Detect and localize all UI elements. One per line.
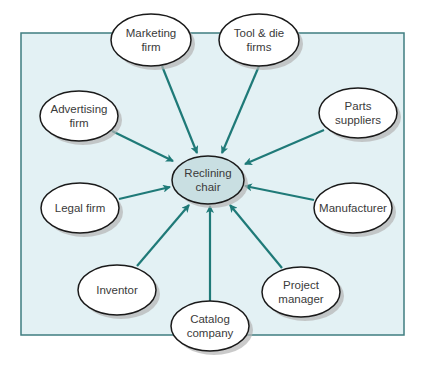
node-label: company bbox=[187, 327, 234, 339]
node-label: Catalog bbox=[190, 313, 230, 325]
node-label: Marketing bbox=[126, 27, 177, 39]
node-catalog-company: Catalog company bbox=[171, 301, 249, 351]
node-label: chair bbox=[196, 181, 221, 193]
node-label: Legal firm bbox=[55, 202, 106, 214]
node-label: firms bbox=[247, 41, 272, 53]
node-inventor: Inventor bbox=[78, 265, 156, 315]
node-advertising-firm: Advertising firm bbox=[40, 91, 118, 141]
node-reclining-chair: Reclining chair bbox=[172, 156, 244, 204]
node-label: Advertising bbox=[51, 103, 108, 115]
node-parts-suppliers: Parts suppliers bbox=[319, 88, 397, 138]
node-label: Tool & die bbox=[234, 27, 285, 39]
node-marketing-firm: Marketing firm bbox=[111, 14, 191, 66]
node-label: Parts bbox=[345, 100, 372, 112]
node-legal-firm: Legal firm bbox=[41, 183, 119, 233]
node-manufacturer: Manufacturer bbox=[314, 183, 392, 233]
node-label: firm bbox=[141, 41, 160, 53]
node-tool-die-firms: Tool & die firms bbox=[219, 14, 299, 66]
node-label: manager bbox=[278, 293, 324, 305]
node-label: firm bbox=[69, 117, 88, 129]
node-label: suppliers bbox=[335, 114, 381, 126]
node-project-manager: Project manager bbox=[262, 267, 340, 317]
node-label: Manufacturer bbox=[319, 202, 387, 214]
node-label: Project bbox=[283, 279, 320, 291]
node-label: Reclining bbox=[184, 167, 231, 179]
stakeholder-diagram: Marketing firm Tool & die firms Advertis… bbox=[0, 0, 427, 373]
node-label: Inventor bbox=[96, 284, 138, 296]
